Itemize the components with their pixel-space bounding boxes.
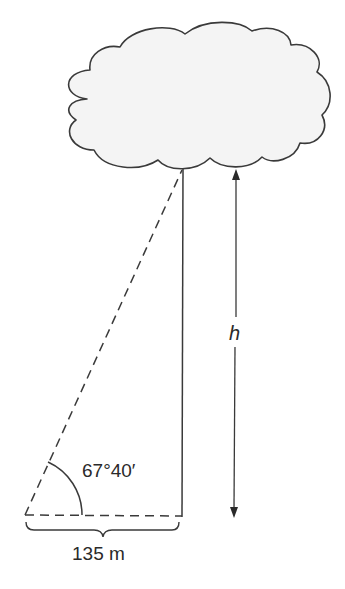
base-distance-label: 135 m [72, 543, 125, 565]
height-arrow-line-bottom [234, 347, 235, 508]
arrowhead-down-icon [230, 507, 238, 518]
height-label: h [229, 322, 240, 345]
angle-label: 67°40′ [82, 460, 135, 482]
diagram-canvas [0, 0, 345, 589]
arrowhead-up-icon [232, 169, 240, 180]
cloud-shape [69, 22, 331, 168]
angle-arc [48, 462, 82, 515]
base-dashed-line [25, 515, 182, 516]
base-brace [26, 522, 179, 537]
vertical-line [182, 168, 183, 517]
